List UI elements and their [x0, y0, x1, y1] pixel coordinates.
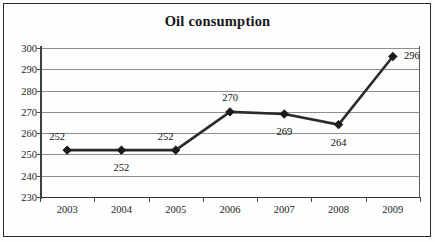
data-label-2006: 270 — [222, 91, 238, 102]
y-tick-mark-260 — [37, 133, 41, 134]
data-point-marker-2003 — [63, 146, 71, 154]
x-tick-mark-4 — [257, 197, 258, 202]
data-point-marker-2004 — [117, 146, 125, 154]
y-tick-mark-280 — [37, 91, 41, 92]
y-tick-mark-270 — [37, 112, 41, 113]
x-tick-mark-0 — [40, 197, 41, 202]
y-tick-mark-240 — [37, 176, 41, 177]
y-tick-mark-300 — [37, 48, 41, 49]
x-tick-mark-7 — [420, 197, 421, 202]
x-tick-mark-5 — [311, 197, 312, 202]
data-label-2004: 252 — [114, 162, 130, 173]
y-tick-mark-290 — [37, 69, 41, 70]
data-label-2007: 269 — [276, 125, 292, 136]
data-point-marker-2007 — [280, 110, 288, 118]
data-label-2003: 252 — [49, 131, 65, 142]
x-tick-mark-2 — [149, 197, 150, 202]
data-label-2005: 252 — [158, 131, 174, 142]
y-tick-mark-250 — [37, 154, 41, 155]
data-label-2008: 264 — [331, 136, 347, 147]
x-tick-mark-6 — [366, 197, 367, 202]
data-label-2009: 296 — [404, 49, 420, 60]
data-series-line — [0, 0, 435, 242]
x-tick-mark-1 — [94, 197, 95, 202]
chart-figure: Oil consumption 300290280270260250240230… — [0, 0, 435, 242]
x-tick-mark-3 — [203, 197, 204, 202]
